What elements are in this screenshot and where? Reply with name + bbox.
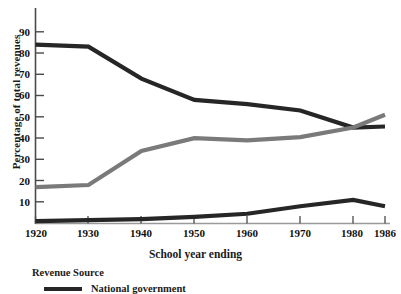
x-tick-label-1960: 1960: [227, 228, 267, 239]
legend-swatch-icon: [44, 287, 82, 291]
x-tick-label-1920: 1920: [16, 228, 56, 239]
x-axis-title: School year ending: [0, 248, 391, 260]
y-axis-ticks: [36, 32, 45, 202]
series-line-state-government: [36, 115, 386, 187]
x-tick-label-1986: 1986: [365, 228, 401, 239]
x-tick-label-1930: 1930: [68, 228, 108, 239]
axis-lines: [36, 8, 391, 224]
x-tick-label-1970: 1970: [280, 228, 320, 239]
x-tick-label-1940: 1940: [121, 228, 161, 239]
legend-title: Revenue Source: [32, 267, 104, 278]
x-tick-label-1950: 1950: [174, 228, 214, 239]
series-line-local-government: [36, 45, 386, 128]
series-lines: [36, 45, 386, 222]
legend-item-label: National government: [91, 283, 186, 294]
legend-item-national-government: National government: [44, 283, 186, 294]
